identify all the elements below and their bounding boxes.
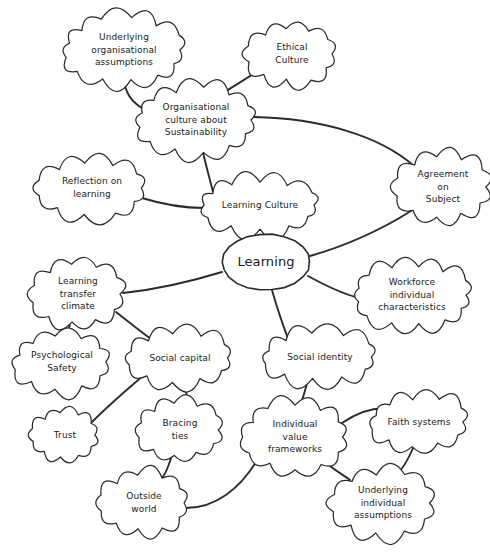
node-learning[interactable]: Learning: [222, 234, 309, 290]
node-individual-value-frameworks[interactable]: Individualvalueframeworks: [240, 396, 346, 477]
mindmap-svg: UnderlyingorganisationalassumptionsEthic…: [0, 0, 490, 554]
node-learning-transfer-climate[interactable]: Learningtransferclimate: [27, 257, 126, 329]
cloud-outline: [33, 153, 145, 225]
edge-outside-world-to-individual-value-frameworks: [186, 462, 256, 508]
edge-organisational-culture-about-sustainability-to-agreement-on-subject: [254, 117, 414, 166]
edge-social-capital-to-trust: [92, 375, 144, 422]
node-bracing-ties[interactable]: Bracingties: [135, 395, 222, 462]
node-reflection-on-learning[interactable]: Reflection onlearning: [33, 153, 145, 225]
cloud-outline: [96, 465, 187, 539]
edge-reflection-on-learning-to-learning-culture: [142, 198, 204, 208]
cloud-outline: [27, 257, 126, 329]
cloud-outline: [12, 328, 109, 400]
cloud-outline: [28, 406, 98, 463]
edge-learning-to-workforce-individual-characteristics: [308, 276, 356, 297]
node-faith-systems[interactable]: Faith systems: [370, 390, 468, 454]
nodes-layer: UnderlyingorganisationalassumptionsEthic…: [12, 8, 490, 545]
node-social-capital[interactable]: Social capital: [125, 324, 230, 392]
edge-agreement-on-subject-to-learning: [310, 211, 411, 256]
node-organisational-culture-about-sustainability[interactable]: Organisationalculture aboutSustainabilit…: [136, 79, 256, 163]
cloud-outline: [355, 257, 472, 333]
node-ethical-culture[interactable]: EthicalCulture: [242, 22, 335, 90]
node-workforce-individual-characteristics[interactable]: Workforceindividualcharacteristics: [355, 257, 472, 333]
node-trust[interactable]: Trust: [28, 406, 98, 463]
cloud-outline: [135, 395, 222, 462]
edge-learning-to-learning-transfer-climate: [123, 272, 222, 293]
cloud-outline: [125, 324, 230, 392]
node-outside-world[interactable]: Outsideworld: [96, 465, 187, 539]
node-social-identity[interactable]: Social identity: [263, 324, 375, 390]
cloud-outline: [63, 8, 185, 92]
cloud-outline: [370, 390, 468, 454]
cloud-outline: [136, 79, 256, 163]
cloud-outline: [263, 324, 375, 390]
cloud-outline: [201, 172, 318, 241]
node-psychological-safety[interactable]: PsychologicalSafety: [12, 328, 109, 400]
cloud-outline: [240, 396, 346, 477]
center-outline: [222, 234, 309, 290]
mindmap-canvas: UnderlyingorganisationalassumptionsEthic…: [0, 0, 490, 554]
node-underlying-organisational-assumptions[interactable]: Underlyingorganisationalassumptions: [63, 8, 185, 92]
node-learning-culture[interactable]: Learning Culture: [201, 172, 318, 241]
cloud-outline: [242, 22, 335, 90]
